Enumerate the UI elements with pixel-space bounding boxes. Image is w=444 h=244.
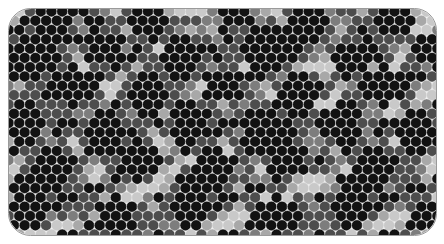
- bead: [368, 229, 379, 240]
- bead: [153, 229, 164, 240]
- bead: [185, 229, 196, 240]
- bead-grid: [3, 6, 443, 240]
- bead: [260, 229, 271, 240]
- bead: [293, 229, 304, 240]
- bead: [207, 229, 218, 240]
- bead: [228, 229, 239, 240]
- bead: [303, 229, 314, 240]
- bead: [3, 6, 14, 17]
- mosaic-canvas: [0, 0, 444, 244]
- bead: [378, 229, 389, 240]
- mosaic-svg: [0, 0, 444, 244]
- bead: [132, 229, 143, 240]
- bead: [110, 229, 121, 240]
- bead: [357, 229, 368, 240]
- bead: [346, 229, 357, 240]
- bead: [432, 229, 443, 240]
- bead: [164, 229, 175, 240]
- bead: [314, 229, 325, 240]
- bead: [100, 229, 111, 240]
- bead: [389, 229, 400, 240]
- bead: [35, 229, 46, 240]
- bead: [218, 229, 229, 240]
- bead: [432, 6, 443, 17]
- bead: [3, 229, 14, 240]
- bead: [89, 229, 100, 240]
- bead: [78, 229, 89, 240]
- bead: [67, 229, 78, 240]
- bead: [282, 229, 293, 240]
- bead: [239, 229, 250, 240]
- bead: [335, 229, 346, 240]
- bead: [57, 229, 68, 240]
- bead: [271, 229, 282, 240]
- bead: [250, 229, 261, 240]
- bead: [142, 229, 153, 240]
- bead: [325, 229, 336, 240]
- bead: [196, 229, 207, 240]
- bead: [400, 229, 411, 240]
- bead: [121, 229, 132, 240]
- bead: [175, 229, 186, 240]
- bead: [421, 229, 432, 240]
- bead: [46, 229, 57, 240]
